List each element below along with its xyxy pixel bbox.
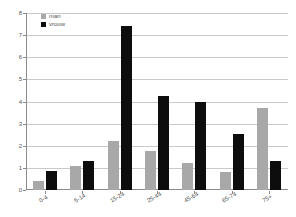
x-axis-tick: 65-74: [213, 191, 250, 217]
chart-legend: man vrouw: [41, 13, 65, 27]
y-axis-tick-label: 2: [19, 143, 22, 149]
x-axis-tick: 15-24: [101, 191, 138, 217]
x-axis-tick-label: 15-24: [109, 191, 125, 204]
bar-chart: 012345678 0-45-1415-2425-4445-6465-7475+…: [0, 0, 296, 217]
legend-label-man: man: [49, 13, 61, 19]
x-axis-tick-label: 5-14: [73, 192, 86, 203]
y-axis-tick-label: 3: [19, 121, 22, 127]
y-axis-tick-label: 6: [19, 54, 22, 60]
bar-group: [101, 13, 138, 190]
legend-item-vrouw: vrouw: [41, 21, 65, 27]
bar-man: [145, 151, 156, 190]
bar-vrouw: [46, 171, 57, 190]
bar-group: [138, 13, 175, 190]
y-axis-tick-label: 5: [19, 76, 22, 82]
bar-group: [251, 13, 288, 190]
legend-swatch-icon-man: [41, 14, 46, 19]
y-axis-tick-label: 0: [19, 187, 22, 193]
bar-groups: [26, 13, 288, 190]
bar-group: [63, 13, 100, 190]
bar-man: [108, 141, 119, 190]
legend-label-vrouw: vrouw: [49, 21, 65, 27]
y-axis-tick-label: 1: [19, 165, 22, 171]
x-axis-tick-label: 25-44: [146, 191, 162, 204]
bar-man: [182, 163, 193, 190]
plot-area: 012345678: [26, 13, 288, 190]
legend-item-man: man: [41, 13, 65, 19]
x-axis-tick-label: 75+: [261, 193, 273, 203]
y-axis-tick-label: 7: [19, 32, 22, 38]
x-axis-tick: 0-4: [26, 191, 63, 217]
x-axis-labels: 0-45-1415-2425-4445-6465-7475+: [26, 191, 288, 217]
bar-man: [257, 108, 268, 190]
legend-swatch-icon-vrouw: [41, 22, 46, 27]
bar-vrouw: [195, 102, 206, 191]
y-axis-tick-label: 4: [19, 99, 22, 105]
bar-vrouw: [121, 26, 132, 190]
bar-group: [26, 13, 63, 190]
bar-vrouw: [270, 161, 281, 190]
x-axis-tick: 45-64: [176, 191, 213, 217]
x-axis-tick: 25-44: [138, 191, 175, 217]
bar-man: [220, 172, 231, 190]
x-axis-tick-label: 0-4: [38, 194, 49, 204]
x-axis-tick: 75+: [251, 191, 288, 217]
bar-group: [213, 13, 250, 190]
bar-vrouw: [233, 134, 244, 190]
bar-man: [70, 166, 81, 190]
x-axis-tick-label: 45-64: [183, 191, 199, 204]
x-axis-tick-label: 65-74: [221, 191, 237, 204]
bar-vrouw: [83, 161, 94, 190]
bar-man: [33, 181, 44, 190]
bar-group: [176, 13, 213, 190]
y-axis-tick-label: 8: [19, 10, 22, 16]
bar-vrouw: [158, 96, 169, 190]
x-axis-tick: 5-14: [63, 191, 100, 217]
